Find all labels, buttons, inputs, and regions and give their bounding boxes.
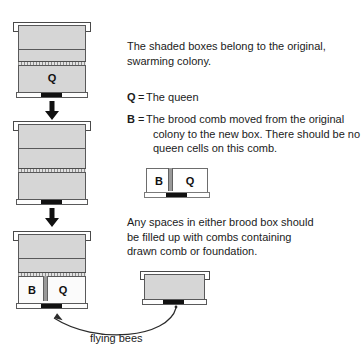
legend-equals-queen: = — [138, 90, 144, 105]
legend-queen-line-1: The queen — [146, 90, 199, 105]
flying-bees-caption: flying bees — [90, 332, 143, 344]
legend-body-queen: The queen — [146, 90, 199, 105]
legend-minibox-comb — [168, 168, 173, 191]
shaded-note-line-1: The shaded boxes belong to the original, — [127, 39, 326, 54]
legend-body-brood: The brood comb moved from the original c… — [146, 112, 360, 156]
spaces-note-line-1: Any spaces in either brood box should — [127, 215, 314, 230]
legend-brood-line-2: colony to the new box. There should be n… — [146, 127, 360, 142]
legend-brood-line-1: The brood comb moved from the original — [146, 112, 360, 127]
spaces-note: Any spaces in either brood box should be… — [127, 215, 314, 259]
shaded-boxes-note: The shaded boxes belong to the original,… — [127, 39, 326, 68]
diagram-canvas: Q B Q — [0, 0, 363, 359]
spaces-note-line-3: drawn comb or foundation. — [127, 244, 314, 259]
legend-key-brood: B — [127, 112, 135, 127]
spaces-note-line-2: be filled up with combs containing — [127, 230, 314, 245]
shaded-note-line-2: swarming colony. — [127, 54, 326, 69]
legend-equals-brood: = — [138, 112, 144, 127]
legend-minibox-brood-label: B — [151, 175, 167, 187]
legend-minibox-entrance-block — [166, 193, 187, 197]
legend-brood-line-3: queen cells on this comb. — [146, 141, 360, 156]
legend-minibox-queen-label: Q — [182, 175, 198, 187]
legend-key-queen: Q — [127, 90, 136, 105]
